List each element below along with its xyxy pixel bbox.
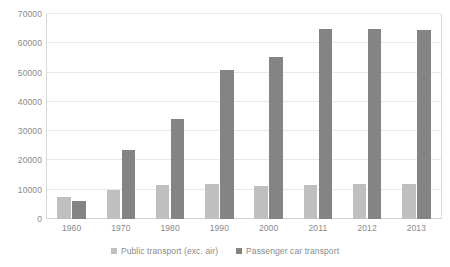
- x-tick-label: 1960: [47, 222, 96, 234]
- y-tick-label: 20000: [0, 156, 42, 165]
- y-tick-label: 70000: [0, 10, 42, 19]
- legend-label: Public transport (exc. air): [121, 246, 218, 256]
- bar: [107, 190, 121, 219]
- bar-group: [244, 14, 293, 219]
- bar: [269, 57, 283, 219]
- bar: [205, 184, 219, 219]
- y-tick-label: 30000: [0, 127, 42, 136]
- legend-item[interactable]: Public transport (exc. air): [111, 246, 218, 256]
- legend-label: Passenger car transport: [246, 246, 339, 256]
- y-tick-label: 0: [0, 215, 42, 224]
- legend-item[interactable]: Passenger car transport: [236, 246, 339, 256]
- bar: [368, 29, 382, 219]
- y-tick-label: 50000: [0, 68, 42, 77]
- bar: [417, 30, 431, 219]
- bar: [220, 70, 234, 219]
- bar: [402, 184, 416, 219]
- bar: [353, 184, 367, 219]
- bar: [122, 150, 136, 219]
- y-axis: 010000200003000040000500006000070000: [0, 0, 42, 219]
- x-axis: 19601970198019902000201120122013: [47, 222, 441, 238]
- bar-group: [392, 14, 441, 219]
- bar-chart: 010000200003000040000500006000070000 196…: [0, 0, 450, 267]
- x-tick-label: 1990: [195, 222, 244, 234]
- bar-group: [195, 14, 244, 219]
- bar: [254, 186, 268, 219]
- x-tick-label: 1970: [96, 222, 145, 234]
- bar-group: [146, 14, 195, 219]
- y-tick-label: 10000: [0, 185, 42, 194]
- bar-group: [293, 14, 342, 219]
- bar: [319, 29, 333, 219]
- x-tick-label: 2000: [244, 222, 293, 234]
- bar: [156, 185, 170, 219]
- legend-swatch-icon: [236, 248, 242, 254]
- bar: [171, 119, 185, 219]
- y-tick-label: 40000: [0, 97, 42, 106]
- x-tick-label: 1980: [146, 222, 195, 234]
- bar-group: [343, 14, 392, 219]
- bar: [72, 201, 86, 219]
- bar-group: [96, 14, 145, 219]
- x-tick-label: 2011: [293, 222, 342, 234]
- y-tick-label: 60000: [0, 39, 42, 48]
- bar: [57, 197, 71, 219]
- legend-swatch-icon: [111, 248, 117, 254]
- bars-layer: [47, 14, 441, 219]
- chart-legend: Public transport (exc. air)Passenger car…: [0, 246, 450, 256]
- bar: [304, 185, 318, 219]
- x-tick-label: 2012: [343, 222, 392, 234]
- x-tick-label: 2013: [392, 222, 441, 234]
- bar-group: [47, 14, 96, 219]
